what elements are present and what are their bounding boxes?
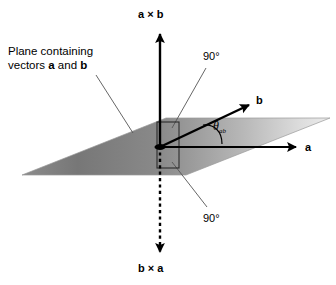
plane-note: Plane containing vectors a and b: [8, 44, 93, 73]
plane-note-conjunction: and: [55, 59, 81, 71]
label-angle-theta-ab: θab: [213, 119, 226, 136]
plane-note-line-2: vectors a and b: [8, 58, 93, 72]
plane-note-line-1: Plane containing: [8, 44, 93, 58]
label-b-cross-a: b × a: [138, 262, 163, 276]
label-right-angle-upper: 90°: [203, 50, 220, 64]
leader-line-plane-note: [96, 75, 133, 133]
plane-note-prefix: vectors: [8, 59, 48, 71]
origin-point: [155, 144, 166, 150]
cross-product-diagram: a × b b × a a b θab 90° 90° Plane contai…: [0, 0, 336, 285]
label-vector-a: a: [305, 141, 311, 155]
label-vector-b: b: [256, 94, 263, 108]
label-a-cross-b: a × b: [138, 8, 163, 22]
label-right-angle-lower: 90°: [203, 212, 220, 226]
theta-subscript: ab: [219, 127, 226, 135]
plane-note-vector-b: b: [80, 59, 87, 71]
diagram-canvas: [0, 0, 336, 285]
